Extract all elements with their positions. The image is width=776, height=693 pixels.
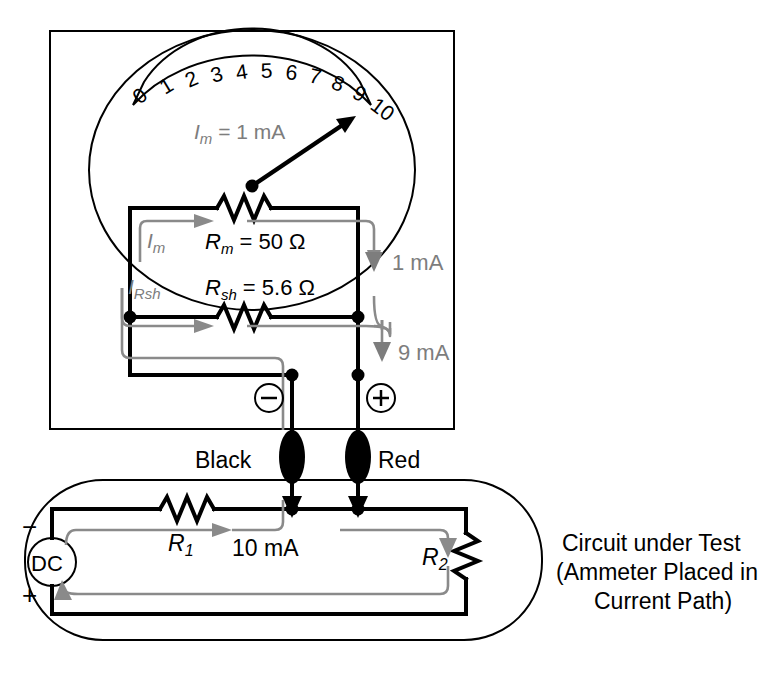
dut-junction-red — [352, 503, 365, 516]
meter-neg-wire — [130, 375, 292, 398]
terminal-positive — [367, 384, 395, 412]
scale-tick-4: 4 — [234, 59, 249, 84]
current-9ma-label: 9 mA — [398, 340, 450, 365]
im-branch-label: Im — [147, 229, 165, 256]
dc-plus-label: + — [22, 580, 37, 610]
scale-tick-10: 10 — [367, 93, 399, 125]
black-probe-label: Black — [195, 447, 252, 473]
scale-tick-3: 3 — [208, 62, 226, 87]
dut-junction-black — [286, 503, 299, 516]
needle-pivot — [246, 180, 259, 193]
flow-9ma-path — [374, 296, 390, 344]
r1-label: R1 — [168, 530, 194, 559]
dc-source-label: DC — [31, 551, 63, 576]
dut-bottom-wire — [52, 586, 466, 614]
current-1ma-label: 1 mA — [392, 250, 444, 275]
scale-tick-7: 7 — [307, 63, 324, 88]
r1-resistor — [160, 497, 214, 521]
dc-minus-label: − — [22, 512, 37, 542]
rsh-label: Rsh = 5.6 Ω — [205, 275, 315, 303]
meter-reading-label: Im = 1 mA — [194, 120, 285, 147]
circuit-diagram: 0 1 2 3 4 5 6 7 8 9 10 Im = 1 mA — [0, 0, 776, 693]
junction-dot-neg — [286, 369, 299, 382]
meter-face-ellipse — [89, 30, 415, 310]
r2-resistor — [454, 533, 478, 579]
junction-dot-right — [352, 311, 365, 324]
scale-tick-6: 6 — [285, 60, 299, 84]
junction-dot-pos — [352, 369, 365, 382]
scale-tick-1: 1 — [155, 73, 177, 99]
current-9ma-marker — [373, 342, 391, 362]
scale-tick-5: 5 — [260, 59, 272, 82]
meter-branch-rm — [130, 196, 358, 220]
dut-caption-line2: (Ammeter Placed in — [556, 559, 758, 585]
dut-caption-line1: Circuit under Test — [562, 530, 741, 556]
scale-tick-2: 2 — [181, 66, 201, 92]
red-probe-label: Red — [378, 447, 420, 473]
meter-scale-numbers: 0 1 2 3 4 5 6 7 8 9 10 — [128, 59, 399, 126]
terminal-negative — [255, 384, 283, 412]
scale-tick-0: 0 — [128, 83, 152, 108]
dut-current-label: 10 mA — [232, 535, 299, 561]
red-probe-tip — [345, 430, 371, 484]
black-probe-tip — [279, 430, 305, 484]
figure-canvas: 0 1 2 3 4 5 6 7 8 9 10 Im = 1 mA — [0, 0, 776, 693]
junction-dot-left — [124, 311, 137, 324]
irsh-branch-label: IRsh — [128, 275, 161, 302]
rm-label: Rm = 50 Ω — [205, 229, 306, 257]
dut-caption-line3: Current Path) — [594, 588, 732, 614]
